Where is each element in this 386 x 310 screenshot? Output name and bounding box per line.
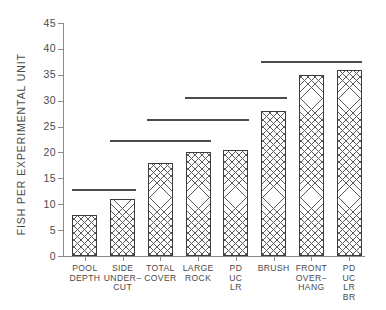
x-axis-tick-mark [349,257,350,261]
x-axis-tick-mark [274,257,275,261]
y-axis-tick-label: 30 [34,95,56,106]
x-axis-tick-label: BRUSH [253,264,295,274]
y-axis-tick-label: 25 [34,121,56,132]
significance-line-2 [110,140,212,142]
y-axis-tick-label: 15 [34,173,56,184]
x-axis-tick-mark [123,257,124,261]
bar [110,199,135,256]
y-axis-tick-label: 20 [34,147,56,158]
y-axis-title: FISH PER EXPERIMENTAL UNIT [16,34,27,254]
y-axis-tick-label: 0 [34,251,56,262]
x-axis-tick-label: FRONT OVER− HANG [290,264,332,293]
x-axis-tick-label: LARGE ROCK [177,264,219,283]
y-axis-tick-label: 5 [34,225,56,236]
x-axis-tick-mark [198,257,199,261]
y-axis-line [63,23,64,257]
significance-line-1 [72,189,136,191]
y-axis-tick-label: 40 [34,43,56,54]
bar [223,150,248,256]
y-axis-tick-labels: 051015202530354045 [29,0,56,310]
x-axis-tick-mark [85,257,86,261]
x-axis-tick-label: POOL DEPTH [64,264,106,283]
bar [337,70,362,256]
x-axis-tick-label: TOTAL COVER [139,264,181,283]
x-axis-tick-mark [311,257,312,261]
x-axis-tick-label: PD UC LR [215,264,257,293]
bar [186,152,211,256]
x-axis-tick-mark [236,257,237,261]
x-axis-tick-mark [160,257,161,261]
x-axis-tick-label: PD UC LR BR [328,264,370,302]
y-axis-tick-label: 10 [34,199,56,210]
bar [299,75,324,256]
significance-line-5 [261,61,363,63]
significance-line-3 [147,119,249,121]
x-axis-tick-label: SIDE UNDER− CUT [102,264,144,293]
y-axis-tick-label: 45 [34,18,56,29]
y-axis-tick-label: 35 [34,69,56,80]
bar [72,215,97,256]
bar-chart: FISH PER EXPERIMENTAL UNIT 0510152025303… [0,0,386,310]
x-axis-line [63,256,365,257]
bar [261,111,286,256]
bar [148,163,173,256]
significance-line-4 [185,97,287,99]
